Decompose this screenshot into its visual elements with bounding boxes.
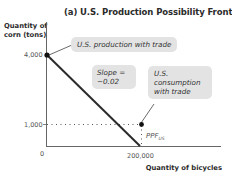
- consumption-pointer: [141, 104, 154, 123]
- ppf-label-main: PPF: [146, 132, 158, 140]
- consumption-callout: U.S. consumption with trade: [148, 66, 212, 99]
- slope-callout: Slope = −0.02: [92, 65, 136, 89]
- production-pointer: [49, 45, 72, 55]
- origin-label: 0: [40, 150, 44, 158]
- slope-callout-line2: −0.02: [97, 77, 131, 86]
- consumption-callout-line3: with trade: [154, 87, 206, 96]
- ppf-label-sub: US: [158, 136, 164, 141]
- production-point: [44, 52, 49, 57]
- ppf-label: PPFUS: [146, 132, 165, 141]
- slope-callout-line1: Slope =: [97, 68, 131, 77]
- x-tick-label-200000: 200,000: [127, 152, 154, 160]
- consumption-point: [139, 122, 144, 127]
- consumption-callout-line2: consumption: [154, 78, 206, 87]
- y-tick-label-1000: 1,000: [24, 121, 43, 129]
- x-axis-label: Quantity of bicycles: [146, 164, 222, 172]
- production-callout-text: U.S. production with trade: [77, 40, 171, 49]
- y-tick-label-4000: 4,000: [24, 51, 43, 59]
- production-callout: U.S. production with trade: [71, 37, 177, 52]
- consumption-callout-line1: U.S.: [154, 69, 206, 78]
